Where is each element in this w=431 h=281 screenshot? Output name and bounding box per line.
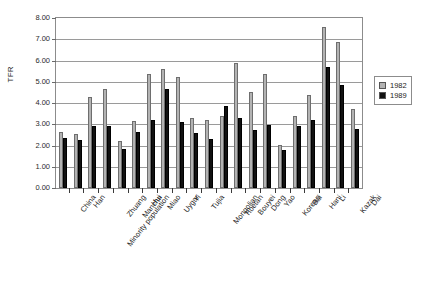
bar-1989 — [326, 67, 330, 188]
bar-1989 — [122, 149, 126, 188]
legend-swatch-icon — [379, 82, 386, 89]
y-axis-title: TFR — [6, 67, 15, 83]
legend-entry: 1982 — [379, 81, 407, 90]
x-axis-category-labels: ChinaHanMinority populationZhuangManchuH… — [55, 193, 363, 279]
bar-group — [318, 18, 333, 188]
bar-group — [333, 18, 348, 188]
y-axis-tick-label: 2.00 — [35, 140, 50, 149]
bar-group — [85, 18, 100, 188]
bar-1989 — [136, 132, 140, 188]
x-axis-category-label: Tujia — [209, 193, 226, 211]
bar-1989 — [311, 120, 315, 188]
bar-group — [304, 18, 319, 188]
legend-label: 1982 — [390, 81, 407, 90]
bar-group — [56, 18, 71, 188]
bar-group — [246, 18, 261, 188]
bar-1989 — [267, 125, 271, 188]
y-axis-tick-label: 6.00 — [35, 55, 50, 64]
bar-group — [275, 18, 290, 188]
y-axis-tick-label: 0.00 — [35, 183, 50, 192]
bar-1989 — [253, 130, 257, 188]
tfr-bar-chart: TFR 8.007.006.005.004.003.002.001.000.00… — [0, 0, 431, 281]
bar-group — [158, 18, 173, 188]
y-axis-tick-label: 1.00 — [35, 161, 50, 170]
bar-group — [173, 18, 188, 188]
y-axis-tick-label: 8.00 — [35, 13, 50, 22]
plot-area — [55, 17, 363, 189]
bar-1989 — [165, 89, 169, 188]
bar-1989 — [180, 122, 184, 188]
y-axis-tick-label: 4.00 — [35, 98, 50, 107]
bar-group — [71, 18, 86, 188]
bar-group — [231, 18, 246, 188]
bar-group — [100, 18, 115, 188]
bar-1989 — [340, 85, 344, 188]
bar-group — [202, 18, 217, 188]
bar-1989 — [224, 106, 228, 188]
bar-group — [187, 18, 202, 188]
bar-1989 — [78, 140, 82, 188]
bar-1989 — [355, 129, 359, 188]
legend-entry: 1989 — [379, 91, 407, 100]
legend-label: 1989 — [390, 91, 407, 100]
bar-group — [260, 18, 275, 188]
y-axis-tick-labels: 8.007.006.005.004.003.002.001.000.00 — [18, 11, 52, 193]
bar-1989 — [63, 138, 67, 188]
x-axis-category-label: Minority population — [125, 193, 171, 248]
bar-1989 — [92, 126, 96, 188]
bar-1989 — [282, 150, 286, 188]
bar-1989 — [194, 133, 198, 188]
bar-group — [143, 18, 158, 188]
y-axis-tick-label: 3.00 — [35, 119, 50, 128]
legend-swatch-icon — [379, 92, 386, 99]
bar-group — [289, 18, 304, 188]
bar-1989 — [107, 126, 111, 188]
chart-legend: 19821989 — [374, 76, 412, 105]
bar-group — [216, 18, 231, 188]
bars-layer — [56, 18, 362, 188]
bar-1989 — [151, 120, 155, 188]
bar-1989 — [209, 139, 213, 189]
bar-group — [348, 18, 363, 188]
bar-1989 — [238, 118, 242, 188]
bar-1989 — [297, 126, 301, 188]
y-axis-tick-label: 7.00 — [35, 34, 50, 43]
bar-group — [129, 18, 144, 188]
bar-group — [114, 18, 129, 188]
y-axis-tick-label: 5.00 — [35, 76, 50, 85]
